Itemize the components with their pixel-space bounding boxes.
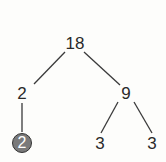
node-right-right: 3 (147, 135, 156, 152)
edge-right-rightleft (101, 102, 118, 133)
node-right-left: 3 (95, 135, 104, 152)
edge-root-right (84, 52, 120, 85)
node-right: 9 (121, 85, 130, 102)
edge-right-rightright (134, 102, 152, 133)
node-left: 2 (17, 85, 26, 102)
node-left-child-highlighted: 2 (12, 133, 32, 153)
node-root: 18 (66, 35, 85, 52)
edge-root-left (34, 52, 65, 84)
